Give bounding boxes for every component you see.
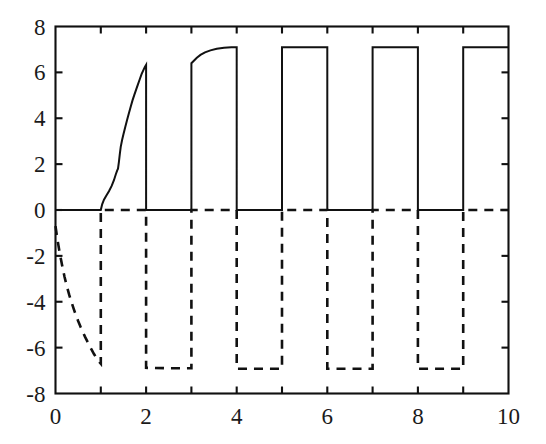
y-tick-label: 2 — [34, 152, 46, 177]
x-tick-label: 8 — [412, 404, 424, 429]
data-series — [56, 47, 509, 369]
y-tick-label: 0 — [34, 198, 46, 223]
x-tick-label: 4 — [231, 404, 243, 429]
x-axis-tick-labels: 0246810 — [50, 404, 520, 429]
y-axis-tick-labels: -8-6-4-202468 — [26, 15, 46, 407]
y-tick-label: -4 — [26, 290, 46, 315]
x-tick-label: 2 — [140, 404, 152, 429]
chart-figure: -8-6-4-202468 0246810 — [0, 0, 546, 444]
y-tick-label: -8 — [26, 382, 45, 407]
y-tick-label: 8 — [34, 15, 46, 40]
x-tick-label: 0 — [50, 404, 62, 429]
y-tick-label: 6 — [34, 60, 46, 85]
x-tick-label: 6 — [322, 404, 334, 429]
plot-canvas: -8-6-4-202468 0246810 — [0, 0, 546, 444]
y-tick-label: -6 — [26, 336, 45, 361]
y-tick-label: 4 — [34, 106, 46, 131]
series-solid-signal — [56, 47, 509, 210]
x-tick-label: 10 — [497, 404, 520, 429]
y-tick-label: -2 — [26, 244, 45, 269]
series-dashed-signal — [56, 210, 509, 369]
